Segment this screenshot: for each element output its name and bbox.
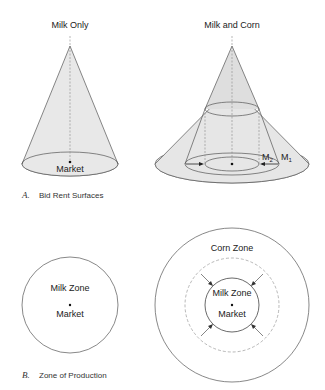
diagram: Milk Only Market Milk and Corn M2 — [0, 0, 325, 390]
milk-and-corn-title: Milk and Corn — [204, 20, 260, 30]
caption-b-letter: B. — [22, 370, 30, 380]
milk-zone-label-left: Milk Zone — [50, 283, 89, 293]
market-label-b-left: Market — [56, 309, 84, 319]
caption-a-letter: A. — [21, 190, 30, 200]
milk-only-title: Milk Only — [51, 20, 89, 30]
market-label-a-left: Market — [56, 164, 84, 174]
caption-b-text: Zone of Production — [39, 371, 107, 380]
milk-only-cone — [22, 36, 118, 176]
caption-a-text: Bid Rent Surfaces — [39, 191, 103, 200]
milk-zone-only — [22, 257, 118, 353]
milk-zone-label-right: Milk Zone — [212, 288, 251, 298]
market-label-b-right: Market — [218, 309, 246, 319]
corn-zone-label: Corn Zone — [211, 243, 254, 253]
